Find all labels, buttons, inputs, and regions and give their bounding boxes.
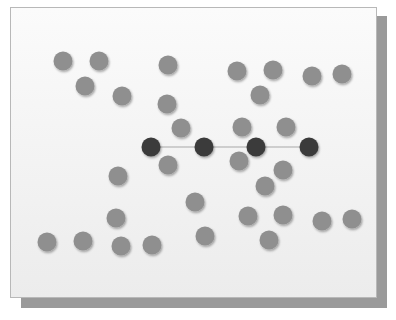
node-light [113,87,132,106]
node-light [107,209,126,228]
node-light [230,152,249,171]
diagram-svg [0,0,396,320]
node-light [143,236,162,255]
node-light [186,193,205,212]
node-light [172,119,191,138]
node-light [159,56,178,75]
node-light [277,118,296,137]
node-dark [300,138,319,157]
node-light [251,86,270,105]
node-light [228,62,247,81]
node-light [158,95,177,114]
node-light [343,210,362,229]
node-dark [247,138,266,157]
node-light [333,65,352,84]
node-dark [142,138,161,157]
node-light [264,61,283,80]
node-light [313,212,332,231]
node-light [159,156,178,175]
node-light [196,227,215,246]
node-light [112,237,131,256]
node-light [239,207,258,226]
node-dark [195,138,214,157]
node-light [74,232,93,251]
node-light [233,118,252,137]
node-light [260,231,279,250]
node-light [256,177,275,196]
node-light [38,233,57,252]
node-light [54,52,73,71]
node-light [303,67,322,86]
node-light [90,52,109,71]
node-light [109,167,128,186]
node-light [274,161,293,180]
node-light [274,206,293,225]
node-light [76,77,95,96]
